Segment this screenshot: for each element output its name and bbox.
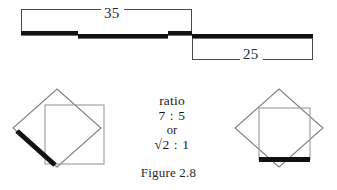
dimension-label-35: 35	[104, 6, 120, 21]
ratio-word: ratio	[129, 94, 215, 109]
ratio-primary-value: 7 : 5	[129, 109, 215, 124]
ratio-secondary-value: √2 : 1	[129, 138, 215, 153]
bar-segment-3	[168, 31, 192, 36]
right-diamond-figure	[235, 89, 323, 167]
right-inscribed-square	[259, 108, 310, 160]
figure-caption: Figure 2.8	[0, 166, 337, 179]
left-highlight-edge	[17, 131, 55, 165]
left-diamond-outline	[13, 89, 101, 167]
bar-segment-2	[78, 34, 168, 39]
bar-segment-4	[192, 34, 313, 39]
left-diamond-figure	[13, 89, 104, 167]
ratio-conjunction: or	[129, 123, 215, 138]
ratio-annotation: ratio 7 : 5 or √2 : 1	[129, 94, 215, 152]
bar-segment-1	[21, 31, 78, 36]
left-inscribed-square	[45, 105, 104, 164]
stepped-bar	[21, 31, 313, 39]
figure-2-8: 35 25 ratio 7 : 5 or √2 : 1 Figure 2.8	[0, 0, 337, 190]
dimension-label-25: 25	[243, 47, 259, 62]
